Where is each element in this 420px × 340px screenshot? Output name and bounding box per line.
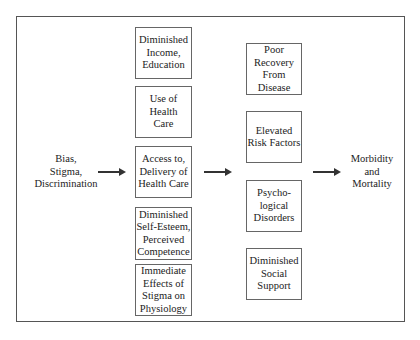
- arrow-right-to-outcome: [313, 168, 341, 176]
- box-use-of-health-care: Use of Health Care: [135, 86, 192, 138]
- box-access-delivery-health-care: Access to, Delivery of Health Care: [135, 146, 192, 198]
- arrow-left-to-right: [204, 168, 232, 176]
- box-diminished-self-esteem: Diminished Self-Esteem, Perceived Compet…: [135, 207, 192, 260]
- box-diminished-social-support: Diminished Social Support: [246, 248, 302, 300]
- source-label: Bias, Stigma, Discrimination: [30, 153, 102, 191]
- box-diminished-income-education: Diminished Income, Education: [135, 27, 192, 79]
- box-elevated-risk-factors: Elevated Risk Factors: [246, 111, 302, 163]
- box-psychological-disorders: Psycho- logical Disorders: [246, 180, 302, 232]
- arrow-source-to-left: [98, 168, 126, 176]
- outcome-label: Morbidity and Mortality: [343, 153, 401, 191]
- box-immediate-effects-stigma: Immediate Effects of Stigma on Physiolog…: [135, 264, 192, 316]
- box-poor-recovery: Poor Recovery From Disease: [246, 43, 302, 95]
